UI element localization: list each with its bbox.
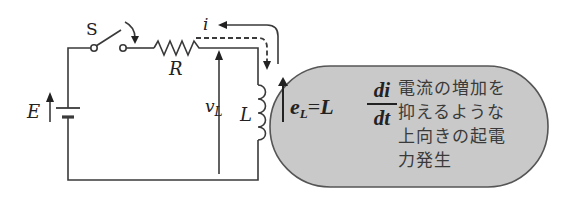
emf-lhs: eL=L <box>290 94 334 122</box>
callout-line: 上向きの起電 <box>398 124 548 148</box>
switch-terminal-right <box>120 45 126 51</box>
emf-equals: = <box>308 94 320 119</box>
emf-coefficient: L <box>320 94 333 119</box>
vl-label: vL <box>205 96 223 119</box>
switch-arrow-head <box>131 36 139 44</box>
wire-left-lower <box>68 117 258 180</box>
callout-line: 力発生 <box>398 148 548 172</box>
inductor <box>258 85 266 140</box>
derivative-fraction: di dt <box>367 78 397 129</box>
fraction-numerator: di <box>367 78 397 102</box>
current-label: i <box>203 14 208 34</box>
vl-arrow-head <box>215 50 223 60</box>
vl-subscript: L <box>214 105 223 119</box>
callout-line: 抑えるような <box>398 100 548 124</box>
current-dashed-arrow-head <box>263 61 271 70</box>
switch-label: S <box>86 19 98 39</box>
inductor-label: L <box>239 104 252 125</box>
fraction-bar <box>367 103 397 105</box>
callout-explanation: 電流の増加を 抑えるような 上向きの起電 力発生 <box>398 76 548 172</box>
switch-blade <box>96 30 121 46</box>
current-dashed-path <box>196 38 267 62</box>
emf-subscript: L <box>300 106 308 121</box>
vl-symbol: v <box>205 96 215 116</box>
emf-up-arrow-icon <box>282 84 284 122</box>
resistor-label: R <box>168 58 183 79</box>
callout-line: 電流の増加を <box>398 76 548 100</box>
current-arrow-line <box>225 25 278 64</box>
e-arrow-head <box>46 92 54 102</box>
battery-label: E <box>26 101 40 122</box>
rl-circuit-diagram: S R i L E vL eL=L di dt 電流の増加を 抑えるような 上向… <box>0 0 565 203</box>
fraction-denominator: dt <box>367 107 397 129</box>
wire-left <box>68 48 91 108</box>
current-arrow-head <box>218 21 227 29</box>
emf-symbol: e <box>290 94 300 119</box>
switch-action-arrow <box>125 22 135 38</box>
